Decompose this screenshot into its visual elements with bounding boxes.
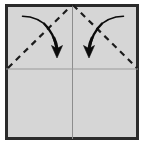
origami-diagram-canvas xyxy=(0,0,146,148)
origami-figure xyxy=(0,0,146,148)
